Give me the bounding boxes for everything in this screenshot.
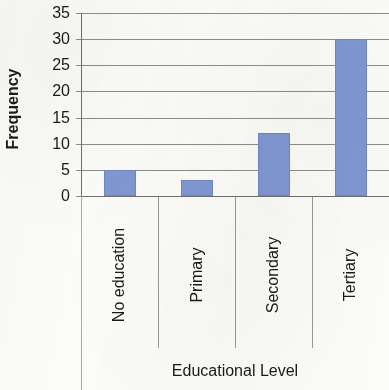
x-axis-category-label-text: Primary: [187, 247, 205, 302]
x-axis-category-label-text: Tertiary: [341, 249, 359, 301]
y-axis-tick-label: 5: [61, 162, 70, 178]
y-axis-title-text: Frequency: [4, 69, 22, 150]
x-axis-category-label-text: Secondary: [265, 237, 283, 314]
bar: [258, 133, 290, 196]
plot-area: [81, 13, 389, 196]
x-axis-category-label: Primary: [158, 197, 235, 353]
x-axis-category-labels: No educationPrimarySecondaryTertiary: [81, 196, 389, 353]
y-axis-tick-label: 30: [52, 31, 70, 47]
y-axis-tick-label: 15: [52, 110, 70, 126]
x-axis-category-label: Secondary: [235, 197, 312, 353]
y-axis-tick-label: 25: [52, 57, 70, 73]
x-axis-category-label-text: No education: [111, 228, 129, 322]
category-cell-divider: [235, 197, 236, 348]
category-cell-divider: [158, 197, 159, 348]
y-axis-tick-labels: 05101520253035: [26, 0, 74, 210]
category-cell-divider: [312, 197, 313, 348]
y-axis-line: [81, 13, 82, 196]
x-axis-category-label: Tertiary: [312, 197, 389, 353]
bars: [81, 13, 389, 196]
y-axis-title: Frequency: [0, 38, 26, 180]
bar: [104, 170, 136, 196]
bar: [335, 39, 367, 196]
y-axis-tick-label: 10: [52, 136, 70, 152]
y-axis-tick-label: 20: [52, 83, 70, 99]
bar: [181, 180, 213, 196]
x-axis-title-text: Educational Level: [172, 362, 298, 380]
y-axis-tick-label: 0: [61, 188, 70, 204]
x-axis-title: Educational Level: [81, 357, 389, 385]
y-axis-tick-label: 35: [52, 5, 70, 21]
bar-chart-figure: Frequency 05101520253035 No educationPri…: [0, 0, 389, 390]
x-axis-category-label: No education: [81, 197, 158, 353]
